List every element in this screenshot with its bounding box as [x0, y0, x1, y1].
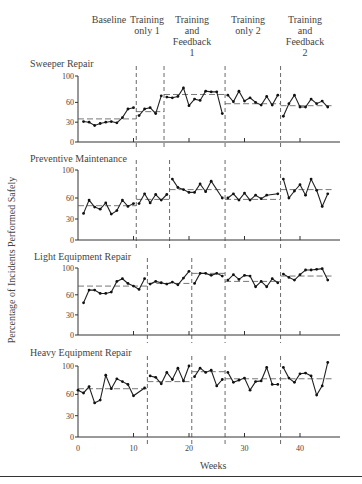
panel-3: 03060100 — [62, 356, 340, 445]
svg-text:30: 30 — [66, 412, 74, 421]
svg-text:60: 60 — [66, 390, 74, 399]
x-tick-label: 40 — [296, 444, 304, 453]
panel-1: 03060100 — [62, 160, 340, 248]
multiple-baseline-chart: 0306010003060100030601000306010001020304… — [0, 0, 362, 484]
x-tick-label: 10 — [130, 444, 138, 453]
svg-text:100: 100 — [62, 72, 74, 81]
svg-text:60: 60 — [66, 98, 74, 107]
svg-text:0: 0 — [70, 331, 74, 340]
x-tick-label: 0 — [76, 444, 80, 453]
panel-0: 03060100 — [62, 66, 340, 150]
svg-text:100: 100 — [62, 362, 74, 371]
svg-text:30: 30 — [66, 215, 74, 224]
svg-text:100: 100 — [62, 264, 74, 273]
svg-text:100: 100 — [62, 166, 74, 175]
svg-text:30: 30 — [66, 311, 74, 320]
svg-text:0: 0 — [70, 138, 74, 147]
svg-text:30: 30 — [66, 118, 74, 127]
x-tick-label: 20 — [185, 444, 193, 453]
svg-text:60: 60 — [66, 291, 74, 300]
svg-text:0: 0 — [70, 433, 74, 442]
svg-text:60: 60 — [66, 194, 74, 203]
panel-2: 03060100 — [62, 258, 340, 343]
x-tick-label: 30 — [241, 444, 249, 453]
svg-text:0: 0 — [70, 236, 74, 245]
